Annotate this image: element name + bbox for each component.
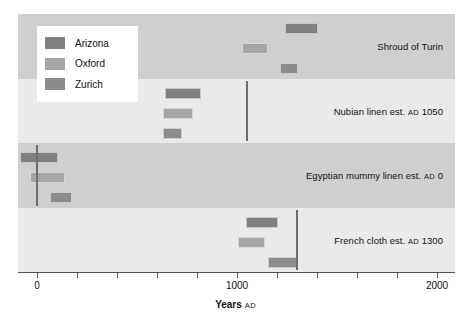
axis-tick: [117, 272, 118, 278]
axis-tick-label: 0: [34, 280, 40, 291]
band-label-year: 1050: [419, 105, 443, 116]
band-label: Shroud of Turin: [377, 41, 443, 52]
radiocarbon-dating-chart: Shroud of TurinNubian linen est. AD 1050…: [0, 0, 471, 322]
legend: ArizonaOxfordZurich: [37, 26, 138, 102]
data-bar: [268, 257, 297, 268]
axis-tick: [397, 272, 398, 278]
band-label-year: 1300: [419, 234, 443, 245]
legend-swatch-icon: [45, 37, 65, 49]
chart-band: French cloth est. AD 1300: [18, 208, 455, 273]
data-bar: [163, 128, 182, 139]
band-label-year: 0: [435, 170, 443, 181]
band-label: Egyptian mummy linen est. AD 0: [306, 170, 443, 181]
x-axis-title-main: Years: [215, 299, 242, 310]
legend-item-zurich[interactable]: Zurich: [45, 74, 130, 95]
axis-tick: [77, 272, 78, 278]
band-label-main: Nubian linen est.: [334, 105, 408, 116]
band-label-main: Shroud of Turin: [377, 41, 443, 52]
band-label: Nubian linen est. AD 1050: [334, 105, 443, 116]
reference-line: [36, 145, 38, 206]
legend-item-oxford[interactable]: Oxford: [45, 54, 130, 75]
legend-item-arizona[interactable]: Arizona: [45, 33, 130, 54]
data-bar: [163, 108, 193, 119]
axis-tick: [317, 272, 318, 278]
axis-tick: [197, 272, 198, 278]
legend-swatch-icon: [45, 58, 65, 70]
legend-label: Oxford: [75, 58, 105, 69]
axis-tick: [157, 272, 158, 278]
data-bar: [280, 63, 298, 74]
x-axis-title: YearsAD: [0, 299, 471, 310]
data-bar: [238, 237, 265, 248]
band-label-era: AD: [424, 172, 435, 181]
reference-line: [246, 81, 248, 142]
axis-tick: [237, 272, 238, 278]
data-bar: [285, 23, 318, 34]
legend-label: Zurich: [75, 79, 103, 90]
x-axis-title-suffix: AD: [245, 301, 256, 310]
band-label: French cloth est. AD 1300: [334, 234, 443, 245]
axis-tick: [37, 272, 38, 278]
reference-line: [296, 210, 298, 271]
band-label-main: Egyptian mummy linen est.: [306, 170, 424, 181]
band-label-era: AD: [408, 236, 419, 245]
chart-band: Egyptian mummy linen est. AD 0: [18, 143, 455, 208]
axis-tick: [437, 272, 438, 278]
data-bar: [50, 192, 72, 203]
data-bar: [20, 152, 58, 163]
legend-label: Arizona: [75, 38, 109, 49]
data-bar: [165, 88, 201, 99]
band-label-main: French cloth est.: [334, 234, 408, 245]
axis-tick: [277, 272, 278, 278]
axis-tick-label: 2000: [426, 280, 448, 291]
axis-tick-label: 1000: [226, 280, 248, 291]
legend-swatch-icon: [45, 78, 65, 90]
axis-tick: [357, 272, 358, 278]
band-label-era: AD: [408, 107, 419, 116]
data-bar: [246, 217, 278, 228]
data-bar: [242, 43, 268, 54]
